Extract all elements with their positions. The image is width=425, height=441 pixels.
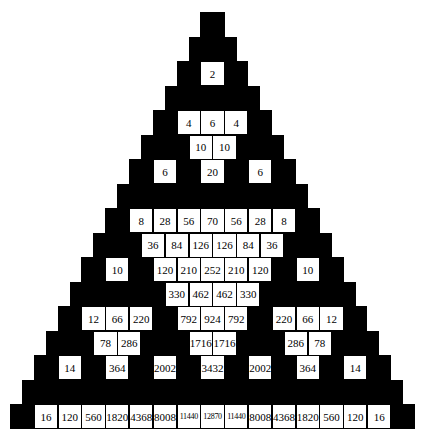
odd-cell [165, 86, 189, 111]
odd-cell [212, 37, 236, 62]
pascal-triangle: 2464101062068285670562883684126126843610… [0, 0, 425, 441]
even-cell: 4 [177, 110, 201, 135]
even-cell: 84 [236, 233, 260, 258]
even-cell: 560 [319, 404, 343, 429]
even-cell: 78 [308, 331, 332, 356]
odd-cell [93, 282, 117, 307]
odd-cell [212, 86, 236, 111]
odd-cell [141, 331, 165, 356]
odd-cell [189, 380, 213, 405]
odd-cell [331, 282, 355, 307]
even-cell: 28 [248, 208, 272, 233]
odd-cell [70, 282, 94, 307]
odd-cell [117, 380, 141, 405]
odd-cell [236, 380, 260, 405]
odd-cell [260, 282, 284, 307]
odd-cell [70, 380, 94, 405]
odd-cell [117, 233, 141, 258]
even-cell: 16 [34, 404, 58, 429]
even-cell: 12870 [200, 404, 224, 429]
odd-cell [189, 184, 213, 209]
even-cell: 20 [200, 159, 224, 184]
even-cell: 364 [296, 355, 320, 380]
even-cell: 36 [260, 233, 284, 258]
even-cell: 120 [248, 257, 272, 282]
even-cell: 14 [343, 355, 367, 380]
odd-cell [81, 257, 105, 282]
even-cell: 120 [153, 257, 177, 282]
odd-cell [331, 331, 355, 356]
odd-cell [319, 257, 343, 282]
odd-cell [129, 257, 153, 282]
even-cell: 36 [141, 233, 165, 258]
even-cell: 11440 [224, 404, 248, 429]
even-cell: 252 [200, 257, 224, 282]
odd-cell [212, 184, 236, 209]
even-cell: 924 [200, 306, 224, 331]
even-cell: 10 [189, 135, 213, 160]
even-cell: 2002 [153, 355, 177, 380]
odd-cell [319, 355, 343, 380]
odd-cell [224, 355, 248, 380]
odd-cell [81, 355, 105, 380]
even-cell: 220 [272, 306, 296, 331]
odd-cell [141, 135, 165, 160]
even-cell: 210 [177, 257, 201, 282]
even-cell: 4368 [129, 404, 153, 429]
even-cell: 1820 [296, 404, 320, 429]
odd-cell [236, 184, 260, 209]
odd-cell [248, 110, 272, 135]
odd-cell [284, 233, 308, 258]
even-cell: 56 [177, 208, 201, 233]
odd-cell [355, 380, 379, 405]
even-cell: 10 [212, 135, 236, 160]
even-cell: 220 [129, 306, 153, 331]
odd-cell [272, 355, 296, 380]
even-cell: 2002 [248, 355, 272, 380]
odd-cell [296, 208, 320, 233]
odd-cell [165, 331, 189, 356]
even-cell: 792 [177, 306, 201, 331]
even-cell: 11440 [177, 404, 201, 429]
even-cell: 56 [224, 208, 248, 233]
even-cell: 1820 [105, 404, 129, 429]
odd-cell [308, 380, 332, 405]
even-cell: 8 [272, 208, 296, 233]
odd-cell [248, 306, 272, 331]
odd-cell [165, 380, 189, 405]
odd-cell [189, 86, 213, 111]
even-cell: 78 [93, 331, 117, 356]
odd-cell [236, 135, 260, 160]
even-cell: 10 [105, 257, 129, 282]
odd-cell [141, 282, 165, 307]
odd-cell [308, 282, 332, 307]
even-cell: 1716 [212, 331, 236, 356]
odd-cell [177, 61, 201, 86]
even-cell: 66 [105, 306, 129, 331]
odd-cell [22, 380, 46, 405]
odd-cell [141, 380, 165, 405]
even-cell: 3432 [200, 355, 224, 380]
even-cell: 6 [153, 159, 177, 184]
even-cell: 10 [296, 257, 320, 282]
odd-cell [70, 331, 94, 356]
even-cell: 462 [212, 282, 236, 307]
odd-cell [105, 208, 129, 233]
odd-cell [58, 306, 82, 331]
odd-cell [93, 380, 117, 405]
odd-cell [260, 184, 284, 209]
odd-cell [129, 159, 153, 184]
even-cell: 330 [165, 282, 189, 307]
odd-cell [34, 355, 58, 380]
odd-cell [331, 380, 355, 405]
even-cell: 6 [200, 110, 224, 135]
even-cell: 364 [105, 355, 129, 380]
odd-cell [379, 380, 403, 405]
even-cell: 66 [296, 306, 320, 331]
even-cell: 120 [58, 404, 82, 429]
even-cell: 330 [236, 282, 260, 307]
even-cell: 462 [189, 282, 213, 307]
even-cell: 4 [224, 110, 248, 135]
even-cell: 126 [212, 233, 236, 258]
even-cell: 1716 [189, 331, 213, 356]
